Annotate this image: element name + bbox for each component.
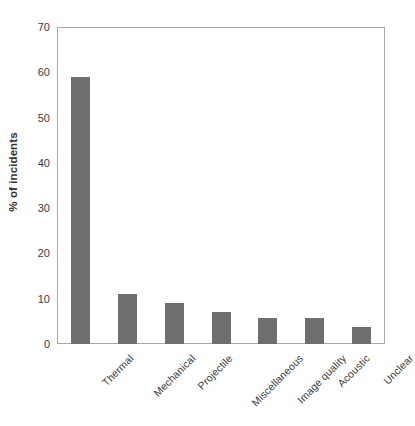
x-axis-tick-labels: ThermalMechanicalProjectileMiscellaneous… bbox=[57, 344, 385, 426]
y-axis-tick-labels: 010203040506070 bbox=[0, 0, 52, 426]
x-tick-label-projectile: Projectile bbox=[195, 352, 235, 392]
bar-projectile bbox=[165, 303, 184, 344]
bar-miscellaneous bbox=[212, 312, 231, 344]
y-tick-30: 30 bbox=[0, 203, 50, 214]
bar-unclear bbox=[352, 327, 371, 344]
y-tick-60: 60 bbox=[0, 67, 50, 78]
bar-thermal bbox=[71, 77, 90, 344]
y-tick-10: 10 bbox=[0, 293, 50, 304]
bar-mechanical bbox=[118, 294, 137, 344]
bar-acoustic bbox=[305, 318, 324, 344]
y-tick-50: 50 bbox=[0, 112, 50, 123]
y-tick-70: 70 bbox=[0, 22, 50, 33]
bar-image-quality bbox=[258, 318, 277, 344]
x-tick-label-mechanical: Mechanical bbox=[151, 352, 198, 399]
y-tick-20: 20 bbox=[0, 248, 50, 259]
bars-layer bbox=[57, 27, 385, 344]
x-tick-label-thermal: Thermal bbox=[100, 352, 136, 388]
y-tick-0: 0 bbox=[0, 339, 50, 350]
y-tick-40: 40 bbox=[0, 157, 50, 168]
x-tick-label-unclear: Unclear bbox=[380, 352, 415, 387]
